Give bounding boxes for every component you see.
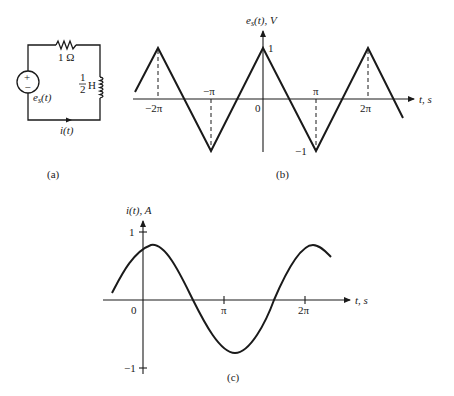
figure-canvas: 1 Ω 1 2 H + − es(t) i(t) (a) es(t), V	[0, 0, 454, 396]
tick-pi: π	[221, 304, 227, 316]
inductor-icon	[100, 77, 103, 98]
svg-text:H: H	[88, 79, 96, 91]
tick-pi: π	[313, 85, 319, 97]
source-label: es(t)	[33, 91, 52, 105]
tick-neg-one: −1	[124, 362, 136, 374]
tick-twopi: 2π	[360, 102, 372, 114]
i-axis-label: i(t), A	[126, 204, 152, 217]
svg-text:2: 2	[80, 83, 86, 95]
tick-zero: 0	[131, 304, 137, 316]
e-axis-label: es(t), V	[246, 14, 278, 28]
resistor-icon	[56, 41, 76, 49]
current-label: i(t)	[60, 124, 74, 137]
resistor-label: 1 Ω	[58, 51, 74, 63]
tick-negpi: −π	[203, 85, 215, 97]
tick-neg2pi: −2π	[145, 102, 163, 114]
tick-neg-one: −1	[295, 145, 307, 157]
svg-text:1: 1	[80, 71, 86, 83]
caption-b: (b)	[276, 168, 289, 181]
tick-one: 1	[129, 226, 135, 238]
tick-zero: 0	[255, 102, 261, 114]
caption-c: (c)	[227, 371, 240, 384]
caption-a: (a)	[47, 168, 60, 181]
t-axis-label: t, s	[419, 93, 432, 105]
tick-twopi: 2π	[298, 304, 310, 316]
svg-text:−: −	[25, 81, 31, 93]
panel-a-circuit: 1 Ω 1 2 H + − es(t) i(t) (a)	[17, 41, 103, 181]
inductor-label: 1 2 H	[79, 71, 96, 95]
t-axis-label: t, s	[355, 294, 368, 306]
panel-c-chart: i(t), A t, s 1 −1 0 π 2π (c)	[103, 204, 368, 384]
tick-one: 1	[268, 42, 274, 54]
panel-b-chart: es(t), V t, s −2π −π 0 π 2π 1 −1 (b)	[133, 14, 432, 181]
current-arrow-icon	[66, 118, 72, 123]
current-wave	[112, 245, 331, 353]
